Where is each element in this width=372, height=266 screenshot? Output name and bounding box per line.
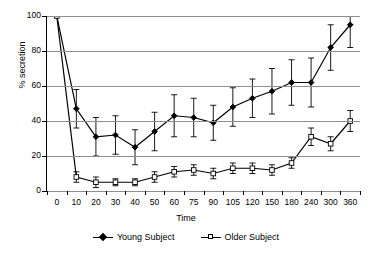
legend-label-older: Older Subject [225,232,280,242]
x-tick-label: 60 [169,197,178,207]
x-tick-label: 90 [209,197,218,207]
data-point-filled-diamond [113,132,119,138]
data-point-open-square [250,166,255,171]
data-point-open-square [191,168,196,173]
x-tick-mark [164,191,165,195]
y-tick-mark [42,191,46,192]
y-tick-mark [42,121,46,122]
data-point-open-square [113,180,118,185]
y-tick-label: 60 [0,81,41,90]
series-young-subject [54,16,353,165]
y-tick-label: 40 [0,116,41,125]
x-tick-label: 40 [130,197,139,207]
data-point-open-square [133,180,138,185]
x-tick-mark [106,191,107,195]
x-tick-mark [145,191,146,195]
x-tick-mark [204,191,205,195]
x-axis-title: Time [0,213,372,223]
filled-diamond-marker-icon [93,233,113,242]
data-point-open-square [309,134,314,139]
x-tick-mark [301,191,302,195]
gridline [47,86,360,87]
data-point-open-square [94,180,99,185]
y-tick-label: 80 [0,46,41,55]
x-tick-label: 50 [150,197,159,207]
x-tick-label: 180 [284,197,298,207]
gridline [47,121,360,122]
x-tick-label: 360 [343,197,357,207]
data-point-open-square [172,169,177,174]
error-bar [347,16,353,48]
data-point-filled-diamond [289,80,295,86]
x-tick-label: 10 [72,197,81,207]
y-tick-label: 20 [0,151,41,160]
data-point-open-square [152,175,157,180]
y-tick-mark [42,156,46,157]
x-tick-mark [223,191,224,195]
x-tick-mark [282,191,283,195]
x-tick-label: 240 [304,197,318,207]
data-point-open-square [289,161,294,166]
chart-legend: Young Subject Older Subject [0,232,372,242]
y-tick-label: 100 [0,11,41,20]
x-tick-mark [340,191,341,195]
legend-item-older: Older Subject [201,232,280,242]
x-tick-label: 120 [245,197,259,207]
series-line [57,16,350,147]
series-line [57,16,350,182]
plot-area [47,16,360,191]
x-tick-mark [184,191,185,195]
y-tick-mark [42,86,46,87]
x-tick-label: 150 [265,197,279,207]
series-older-subject [54,16,353,188]
data-point-filled-diamond [250,95,256,101]
y-axis-tick-labels: 020406080100 [0,0,41,266]
y-tick-label: 0 [0,186,41,195]
legend-item-young: Young Subject [93,232,175,242]
data-point-open-square [231,166,236,171]
x-tick-mark [262,191,263,195]
gridline [47,51,360,52]
x-tick-label: 105 [226,197,240,207]
data-point-filled-diamond [269,88,275,94]
x-tick-label: 75 [189,197,198,207]
data-point-filled-diamond [308,80,314,86]
chart-figure: % secretion 020406080100 010203040506075… [0,0,372,266]
data-point-filled-diamond [191,115,197,121]
x-tick-mark [86,191,87,195]
legend-label-young: Young Subject [117,232,175,242]
x-tick-label: 0 [54,197,59,207]
x-tick-mark [125,191,126,195]
data-point-open-square [74,175,79,180]
x-tick-mark [67,191,68,195]
y-tick-mark [42,16,46,17]
x-tick-mark [47,191,48,195]
data-point-open-square [270,168,275,173]
x-tick-mark [360,191,361,195]
data-point-open-square [211,171,216,176]
x-tick-label: 30 [111,197,120,207]
open-square-marker-icon [201,233,221,242]
gridline [47,156,360,157]
x-tick-mark [321,191,322,195]
x-tick-label: 20 [91,197,100,207]
series-layer [47,16,360,191]
y-tick-mark [42,51,46,52]
x-tick-label: 300 [324,197,338,207]
x-tick-mark [243,191,244,195]
data-point-open-square [328,141,333,146]
gridline [47,16,360,17]
